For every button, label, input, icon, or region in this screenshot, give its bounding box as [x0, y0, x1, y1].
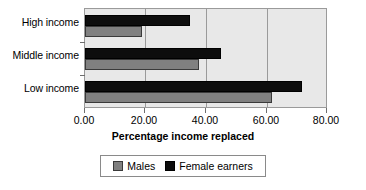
x-tick-label-80: 80.00	[313, 114, 339, 126]
x-tick-label-20: 20.00	[131, 114, 157, 126]
x-tick-20	[144, 108, 145, 113]
legend-swatch-males-icon	[113, 161, 123, 171]
category-label-middle-income: Middle income	[0, 49, 79, 61]
x-tick-label-60: 60.00	[253, 114, 279, 126]
category-label-low-income: Low income	[0, 82, 79, 94]
x-tick-80	[326, 108, 327, 113]
legend-entry-female-earners: Female earners	[165, 160, 253, 172]
bar-high-income-males	[85, 26, 142, 37]
x-tick-label-40: 40.00	[192, 114, 218, 126]
category-tick-1	[80, 42, 85, 43]
plot-area	[84, 8, 327, 108]
legend-swatch-female-earners-icon	[165, 161, 175, 171]
bar-middle-income-males	[85, 59, 199, 70]
category-axis-labels: High income Middle income Low income	[0, 8, 79, 108]
x-tick-label-0: 0.00	[74, 114, 94, 126]
x-axis-title: Percentage income replaced	[0, 130, 366, 142]
legend: Males Female earners	[100, 155, 266, 177]
bar-chart: High income Middle income Low income 0.0…	[0, 0, 366, 190]
legend-entry-males: Males	[113, 160, 155, 172]
legend-label-female-earners: Female earners	[179, 160, 253, 172]
bar-middle-income-female-earners	[85, 48, 221, 59]
x-axis: 0.00 20.00 40.00 60.00 80.00	[84, 108, 327, 114]
bar-high-income-female-earners	[85, 15, 190, 26]
x-tick-60	[266, 108, 267, 113]
category-label-high-income: High income	[0, 16, 79, 28]
category-tick-2	[80, 75, 85, 76]
x-tick-40	[205, 108, 206, 113]
bar-low-income-males	[85, 92, 272, 103]
bar-low-income-female-earners	[85, 81, 302, 92]
legend-label-males: Males	[127, 160, 155, 172]
x-tick-0	[84, 108, 85, 113]
